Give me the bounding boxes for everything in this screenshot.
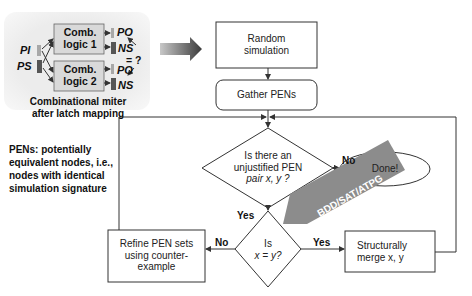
refine-label: Refine PEN setsusing counter-example [108,238,205,273]
random-simulation-label: Randomsimulation [216,33,317,56]
po1-label: PO [117,26,133,39]
ns1-latch [111,42,116,54]
yes-label-1: Yes [237,210,254,222]
pen-definition: PENs: potentiallyequivalent nodes, i.e.,… [9,143,113,195]
po2-latch [111,64,114,74]
no-label-2: No [215,237,228,249]
gather-pens-label: Gather PENs [216,89,317,101]
merge-label: Structurallymerge x, y [357,240,407,263]
miter-caption: Combinational miterafter latch mapping [10,96,146,119]
ns1-label: NS [118,42,133,55]
decision1-label: Is there anunjustified PENpair x, y ? [218,150,318,185]
yes-label-2: Yes [313,237,330,249]
ns2-latch [111,78,116,90]
big-arrow-icon [160,37,202,61]
ns2-label: NS [118,79,133,92]
ps-label: PS [17,60,32,73]
comb-logic-2-label: Comb.logic 2 [54,63,106,87]
po1-latch [111,28,114,38]
pi-latch [37,45,41,56]
ps-latch [37,60,42,73]
pi-label: PI [20,44,30,57]
comb-logic-1-label: Comb.logic 1 [54,26,106,50]
po2-label: PO [117,64,133,77]
decision2-label: Isx = y? [248,238,288,261]
